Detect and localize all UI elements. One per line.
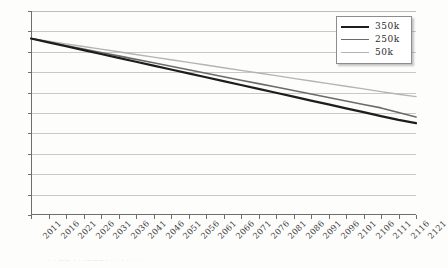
x-axis-label-2106: 2106 [374, 219, 395, 240]
legend-swatch-50k [341, 52, 369, 53]
x-axis-label-2031: 2031 [111, 219, 132, 240]
x-tick-2066 [224, 215, 225, 219]
x-axis-label-2046: 2046 [164, 219, 185, 240]
x-axis-label-2051: 2051 [181, 219, 202, 240]
x-tick-2036 [119, 215, 120, 219]
legend-swatch-250k [341, 39, 369, 40]
x-axis-label-2011: 2011 [41, 219, 62, 240]
x-axis-label-2021: 2021 [76, 219, 97, 240]
legend-swatch-350k [341, 26, 369, 28]
x-tick-2031 [101, 215, 102, 219]
x-axis-label-2066: 2066 [234, 219, 255, 240]
x-tick-2041 [136, 215, 137, 219]
x-tick-2106 [364, 215, 365, 219]
x-tick-2096 [329, 215, 330, 219]
x-axis-label-2061: 2061 [216, 219, 237, 240]
x-axis-label-2086: 2086 [304, 219, 325, 240]
x-tick-2121 [416, 215, 417, 219]
x-tick-2111 [381, 215, 382, 219]
x-tick-2071 [241, 215, 242, 219]
x-axis-label-2096: 2096 [339, 219, 360, 240]
x-axis-label-2121: 2121 [426, 219, 447, 240]
x-tick-2061 [206, 215, 207, 219]
x-axis-label-2016: 2016 [59, 219, 80, 240]
x-axis-label-2081: 2081 [286, 219, 307, 240]
x-tick-2011 [31, 215, 32, 219]
legend-item-350k: 350k [341, 20, 407, 33]
x-axis-label-2111: 2111 [391, 219, 412, 240]
x-tick-2056 [189, 215, 190, 219]
page-caption: · · —— · · ·———· · · · · · · [48, 257, 414, 265]
x-tick-2076 [259, 215, 260, 219]
x-axis-label-2036: 2036 [129, 219, 150, 240]
x-axis-label-2091: 2091 [321, 219, 342, 240]
x-tick-2116 [399, 215, 400, 219]
x-tick-2081 [276, 215, 277, 219]
x-tick-2046 [154, 215, 155, 219]
x-tick-2026 [84, 215, 85, 219]
x-tick-2016 [49, 215, 50, 219]
chart-legend: 350k 250k 50k [336, 16, 412, 64]
x-axis-label-2101: 2101 [356, 219, 377, 240]
x-axis-label-2056: 2056 [199, 219, 220, 240]
x-axis-label-2041: 2041 [146, 219, 167, 240]
x-axis-label-2026: 2026 [94, 219, 115, 240]
x-tick-2086 [294, 215, 295, 219]
legend-item-250k: 250k [341, 33, 407, 46]
x-axis-label-2071: 2071 [251, 219, 272, 240]
x-axis-label-2116: 2116 [409, 219, 430, 240]
legend-label-250k: 250k [375, 35, 400, 44]
x-tick-2051 [171, 215, 172, 219]
x-tick-2101 [346, 215, 347, 219]
x-axis-label-2076: 2076 [269, 219, 290, 240]
legend-label-350k: 350k [375, 22, 400, 31]
legend-item-50k: 50k [341, 46, 407, 59]
x-tick-2021 [66, 215, 67, 219]
x-tick-2091 [311, 215, 312, 219]
legend-label-50k: 50k [375, 48, 393, 57]
